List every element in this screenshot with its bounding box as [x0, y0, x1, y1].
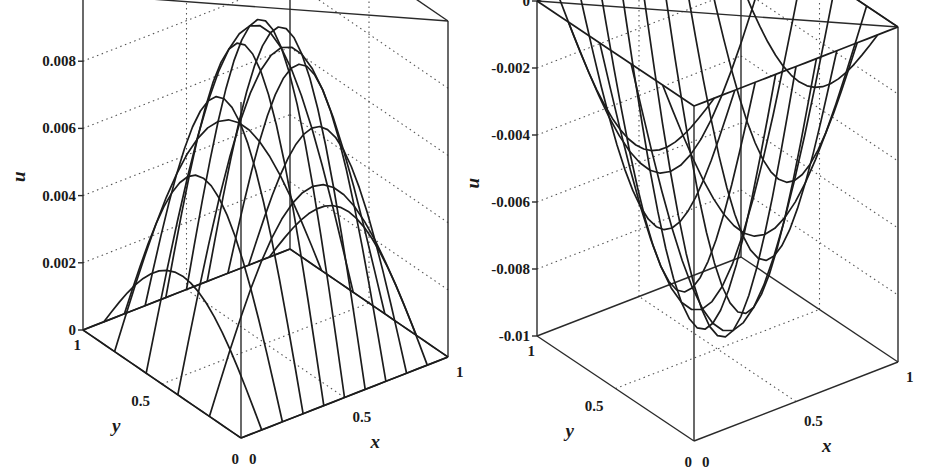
z-gridline [290, 115, 448, 223]
mesh-line-x [104, 270, 262, 430]
z-tick-label: 0.002 [42, 255, 76, 271]
mesh-line-y [241, 357, 448, 438]
y-axis-label: y [110, 415, 121, 436]
z-tick-label: 0 [523, 0, 531, 9]
y-axis-label: y [564, 420, 575, 441]
z-gridline [83, 47, 290, 128]
x-tick-label: 0 [702, 454, 710, 470]
x-tick-label: 0.5 [804, 413, 823, 429]
mesh-line-y [694, 27, 898, 106]
z-tick-label: -0.004 [491, 127, 530, 143]
x-tick-label: 1 [906, 369, 914, 385]
x-tick-label: 0.5 [353, 409, 372, 425]
x-axis-label: x [821, 435, 832, 456]
y-tick-label: 1 [528, 343, 536, 359]
figure-canvas: 00.0020.0040.0060.0080.01u00.51y00.51x -… [0, 0, 925, 476]
right-mesh-surface [537, 0, 898, 337]
z-tick-label: -0.002 [491, 60, 530, 76]
right-tick-labels: -0.01-0.008-0.006-0.004-0.0020u00.51y00.… [462, 0, 914, 470]
mesh-line-x [83, 330, 241, 438]
right-surface-plot: -0.01-0.008-0.006-0.004-0.0020u00.51y00.… [462, 0, 914, 470]
z-tick-label: 0 [69, 322, 77, 338]
z-axis-label: u [462, 178, 483, 189]
left-tick-labels: 00.0020.0040.0060.0080.01u00.51y00.51x [8, 0, 464, 467]
z-tick-label: 0.008 [42, 53, 76, 69]
y-tick-label: 0.5 [585, 398, 604, 414]
left-dotted-grid [83, 0, 448, 398]
z-tick-label: 0.004 [42, 188, 76, 204]
floor-gridline [616, 310, 820, 389]
y-tick-label: 0.5 [131, 393, 150, 409]
mesh-line-y [146, 26, 353, 374]
y-axis-line [537, 336, 694, 441]
mesh-line-x [598, 0, 755, 292]
z-gridline [290, 47, 448, 155]
left-mesh-surface [83, 20, 448, 439]
z-tick-label: 0.006 [42, 120, 76, 136]
z-tick-label: -0.008 [491, 261, 530, 277]
z-tick-label: -0.006 [491, 194, 530, 210]
left-surface-plot: 00.0020.0040.0060.0080.01u00.51y00.51x [8, 0, 464, 467]
x-tick-label: 0 [249, 451, 257, 467]
x-tick-label: 1 [456, 364, 464, 380]
z-axis-label: u [8, 171, 29, 182]
x-axis-line [694, 362, 898, 441]
z-tick-label: -0.01 [499, 328, 530, 344]
box-edge [83, 0, 448, 21]
y-tick-label: 0 [685, 454, 693, 470]
z-tick-label: 0.01 [50, 0, 76, 2]
right-dotted-grid [537, 0, 898, 402]
mesh-line-x [249, 127, 407, 374]
box-edge [741, 257, 898, 362]
mesh-line-x [537, 1, 694, 106]
y-tick-label: 1 [74, 337, 82, 353]
mesh-line-x [269, 206, 427, 366]
x-axis-label: x [370, 431, 381, 452]
y-tick-label: 0 [232, 451, 240, 467]
floor-gridline [639, 297, 796, 402]
